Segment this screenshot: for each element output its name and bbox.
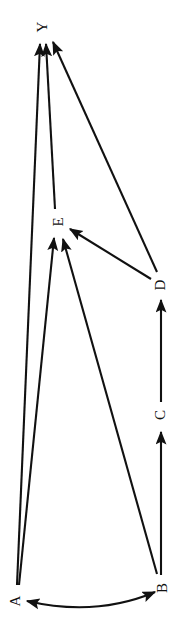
edge-e-to-y [46, 44, 55, 209]
edge-a-to-b-bidirectional [27, 592, 155, 607]
node-label-c-text: C [153, 410, 168, 420]
node-label-a-text: A [8, 596, 23, 607]
node-label-d-text: D [153, 280, 168, 291]
node-label-y-text: Y [35, 22, 50, 33]
node-label-b: B [157, 581, 167, 596]
node-label-d: D [155, 278, 166, 293]
edge-d-to-e [70, 229, 151, 279]
node-label-e: E [53, 215, 62, 230]
causal-diagram: Y E D C B A [0, 0, 191, 641]
edge-b-to-e [63, 239, 157, 574]
node-label-e-text: E [51, 217, 66, 226]
node-label-c: C [155, 408, 165, 423]
graph-canvas [0, 0, 191, 641]
node-label-y: Y [37, 20, 48, 35]
node-label-b-text: B [155, 583, 170, 593]
node-label-a: A [10, 594, 21, 609]
edge-a-to-y [17, 44, 40, 585]
edge-d-to-y [53, 42, 157, 272]
